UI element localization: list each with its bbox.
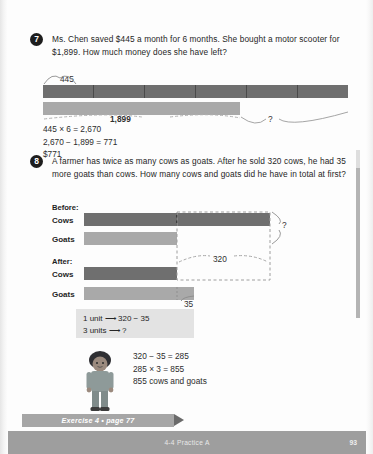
page-gutter-left	[0, 0, 7, 454]
problem-7-unit-label: 445	[60, 74, 74, 84]
before-total-label: ?	[282, 220, 287, 230]
leg-right	[101, 391, 108, 408]
footer-title: 4-4 Practice A	[8, 431, 366, 454]
face	[93, 357, 108, 372]
before-cows-divider	[176, 213, 177, 226]
problem-8-number: 8	[30, 155, 43, 168]
arm-right	[109, 372, 114, 389]
workbook-page: 7 Ms. Chen saved $445 a month for 6 mont…	[0, 0, 373, 454]
bar-segment	[298, 85, 348, 98]
before-cows-bar	[84, 213, 270, 226]
before-total-brace-top	[272, 212, 280, 224]
bar-segment	[145, 85, 196, 98]
shirt	[91, 371, 109, 392]
after-heading: After:	[52, 257, 72, 266]
student-character-illustration	[78, 350, 122, 412]
footer-page-number: 93	[349, 431, 357, 454]
before-cows-label: Cows	[52, 216, 73, 225]
before-heading: Before:	[52, 203, 79, 212]
sold-brace-left	[179, 256, 210, 262]
problem-7-number: 7	[30, 33, 43, 46]
problem-8-text: A farmer has twice as many cows as goats…	[52, 155, 348, 181]
problem-8-work: 320 − 35 = 285 285 × 3 = 855 855 cows an…	[133, 350, 207, 388]
before-total-brace-bottom	[272, 230, 280, 244]
after-goats-label: Goats	[52, 290, 75, 299]
bar-segment	[43, 85, 94, 98]
problem-7-unknown-label: ?	[268, 114, 273, 124]
page-footer: 4-4 Practice A 93	[8, 431, 366, 454]
problem-7: 7 Ms. Chen saved $445 a month for 6 mont…	[30, 33, 348, 59]
before-goats-label: Goats	[52, 235, 75, 244]
arm-left	[87, 372, 92, 389]
problem-7-spent-bar	[43, 102, 240, 115]
shoe-right	[100, 407, 110, 411]
page-edge-right	[366, 0, 373, 454]
after-sold-label: 320	[213, 254, 227, 264]
exercise-banner: Exercise 4 • page 77	[22, 414, 174, 427]
problem-8: 8 A farmer has twice as many cows as goa…	[30, 155, 348, 181]
after-goats-bar	[84, 287, 194, 300]
bar-segment	[196, 85, 247, 98]
after-cows-label: Cows	[52, 270, 73, 279]
bar-segment	[94, 85, 145, 98]
problem-7-text: Ms. Chen saved $445 a month for 6 months…	[52, 33, 348, 59]
leg-left	[92, 391, 99, 408]
remainder-brace-right	[279, 112, 348, 122]
after-difference-label: 35	[184, 299, 193, 309]
bar-segment	[247, 85, 298, 98]
spent-brace-right	[170, 115, 240, 118]
before-goats-bar	[84, 232, 177, 245]
problem-7-savings-bar	[43, 85, 348, 98]
sold-brace-right	[234, 256, 268, 262]
scan-artifact-upper	[356, 150, 360, 168]
hint-box: 1 unit ⟶ 320 − 35 3 units ⟶ ?	[76, 309, 194, 338]
after-cows-bar	[84, 267, 177, 280]
remainder-brace-left	[241, 117, 266, 123]
shoe-left	[91, 407, 101, 411]
scan-artifact-strip	[356, 168, 360, 318]
banner-arrow-icon	[174, 414, 184, 426]
